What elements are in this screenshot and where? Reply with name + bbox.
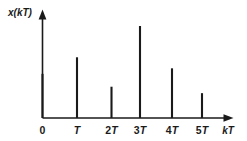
x-tick-label-2: 2T — [105, 124, 119, 136]
y-axis-arrow-icon — [39, 10, 47, 20]
x-tick-label-3: 3T — [134, 124, 148, 136]
x-tick-label-4: 4T — [166, 124, 180, 136]
x-tick-label-0: 0 — [40, 124, 46, 136]
stem-plot-canvas: 0 T 2T 3T 4T 5T kT x(kT) — [0, 0, 247, 141]
chart-figure: 0 T 2T 3T 4T 5T kT x(kT) — [0, 0, 247, 141]
x-tick-label-1: T — [74, 124, 82, 136]
x-axis-arrow-icon — [224, 114, 234, 122]
y-axis-title: x(kT) — [7, 7, 33, 18]
x-axis-title: kT — [222, 125, 235, 136]
x-tick-label-5: 5T — [196, 124, 210, 136]
